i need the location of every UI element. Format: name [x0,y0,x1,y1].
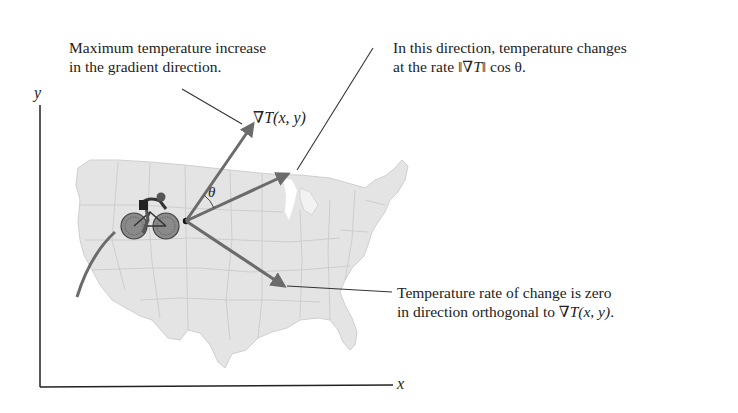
annotation-max-increase: Maximum temperature increase in the grad… [69,38,266,76]
x-axis-label: x [397,375,404,393]
gradient-norm: ‖∇T‖ [458,58,486,75]
zero-rate-suffix: . [610,303,614,320]
leader-rate-direction [297,48,373,170]
annotation-zero-rate: Temperature rate of change is zero in di… [397,283,614,321]
annotation-max-increase-line1: Maximum temperature increase [69,38,266,57]
y-axis-label: y [34,84,41,102]
zero-rate-gradient: ∇T(x, y) [559,303,610,320]
gradient-figure: y x ∇T(x, y) θ Maximum temperature incre… [0,0,738,413]
annotation-rate-direction-line2: at the rate ‖∇T‖ cos θ. [393,57,627,76]
gradient-label-text: ∇T(x, y) [253,109,306,126]
annotation-rate-direction: In this direction, temperature changes a… [393,38,627,76]
gradient-label: ∇T(x, y) [253,108,306,127]
us-map [76,160,408,368]
leader-max-increase [182,89,242,124]
rate-suffix: cos θ. [486,58,526,75]
annotation-max-increase-line2: in the gradient direction. [69,57,266,76]
annotation-zero-rate-line2: in direction orthogonal to ∇T(x, y). [397,302,614,321]
annotation-zero-rate-line1: Temperature rate of change is zero [397,283,614,302]
annotation-rate-direction-line1: In this direction, temperature changes [393,38,627,57]
theta-label: θ [208,183,215,202]
rate-prefix: at the rate [393,58,458,75]
x-axis [40,385,393,387]
zero-rate-prefix: in direction orthogonal to [397,303,559,320]
